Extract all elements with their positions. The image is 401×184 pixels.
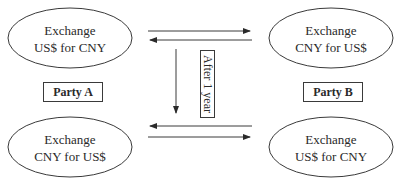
- ellipse-shape: [269, 8, 393, 68]
- node-line1: Exchange: [305, 132, 356, 147]
- node-party-a-final: Exchange CNY for US$: [8, 117, 132, 177]
- party-b-box: Party B: [304, 83, 363, 102]
- node-line1: Exchange: [44, 132, 95, 147]
- time-label-box: After 1 year: [201, 51, 215, 118]
- party-a-box: Party A: [44, 83, 103, 102]
- party-b-label: Party B: [313, 85, 353, 99]
- node-party-a-initial: Exchange US$ for CNY: [8, 8, 132, 68]
- node-line2: US$ for CNY: [295, 149, 368, 164]
- ellipse-shape: [8, 8, 132, 68]
- node-party-b-initial: Exchange CNY for US$: [269, 8, 393, 68]
- node-line1: Exchange: [305, 23, 356, 38]
- ellipse-shape: [269, 117, 393, 177]
- ellipse-shape: [8, 117, 132, 177]
- node-line2: CNY for US$: [34, 149, 106, 164]
- node-line2: CNY for US$: [295, 40, 367, 55]
- node-line2: US$ for CNY: [34, 40, 107, 55]
- node-line1: Exchange: [44, 23, 95, 38]
- time-label: After 1 year: [201, 55, 215, 113]
- node-party-b-final: Exchange US$ for CNY: [269, 117, 393, 177]
- party-a-label: Party A: [53, 85, 93, 99]
- swap-diagram: Exchange US$ for CNY Exchange CNY for US…: [0, 0, 401, 184]
